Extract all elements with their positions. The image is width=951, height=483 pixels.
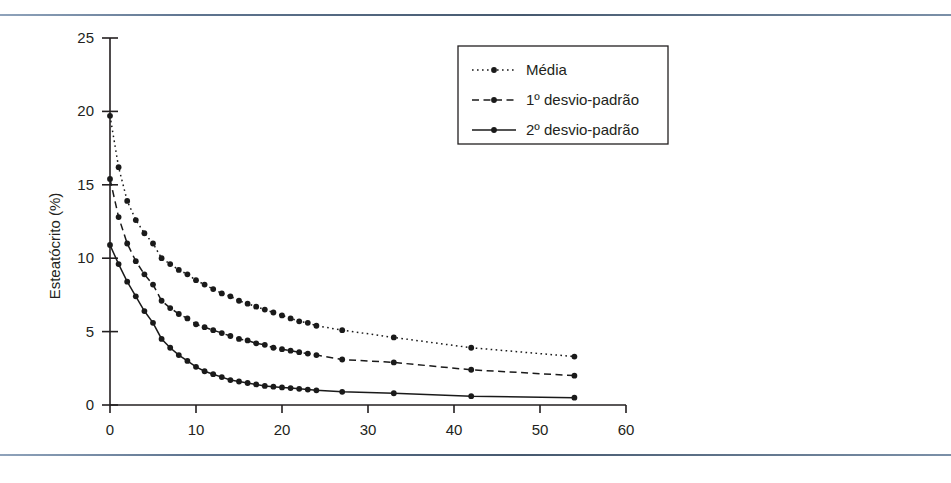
series-marker [176,311,182,317]
series-marker [288,348,294,354]
series-marker [236,379,242,385]
series-marker [202,282,208,288]
series-marker [124,198,130,204]
x-axis-tick-label: 10 [188,421,205,438]
series-marker [305,320,311,326]
chart-figure: 01020304050600510152025 Esteatócrito (%)… [0,16,951,454]
series-marker [271,384,277,390]
series-marker [305,387,311,393]
series-marker [210,371,216,377]
series-marker [210,327,216,333]
series-marker [167,261,173,267]
y-axis-title: Esteatócrito (%) [46,193,63,300]
series-marker [176,352,182,358]
legend-sample-marker [491,67,497,73]
series-marker [167,305,173,311]
legend-item-label: Média [526,61,568,78]
series-line [110,179,574,376]
series-marker [124,241,130,247]
y-axis-tick-label: 15 [77,176,94,193]
series-marker [339,357,345,363]
y-axis-tick-label: 0 [86,396,94,413]
series-marker [193,321,199,327]
series-marker [228,377,234,383]
series-marker [142,308,148,314]
series-marker [296,386,302,392]
series-marker [133,258,139,264]
series-marker [253,382,259,388]
series-marker [279,313,285,319]
series-marker [262,307,268,313]
series-marker [314,352,320,358]
series-marker [245,338,251,344]
series-marker [176,267,182,273]
series-marker [245,380,251,386]
series-marker [468,345,474,351]
series-marker [133,293,139,299]
series-marker [339,389,345,395]
series-marker [193,364,199,370]
series-marker [296,318,302,324]
x-axis-tick-label: 0 [106,421,114,438]
series-marker [185,358,191,364]
series-marker [305,351,311,357]
series-marker [219,374,225,380]
series-marker [116,261,122,267]
series-marker [391,335,397,341]
series-marker [391,360,397,366]
series-marker [116,214,122,220]
series-marker [133,217,139,223]
series-marker [339,327,345,333]
series-marker [116,164,122,170]
series-marker [314,323,320,329]
series-marker [468,367,474,373]
series-marker [142,230,148,236]
series-marker [150,241,156,247]
x-axis-tick-label: 30 [360,421,377,438]
series-marker [314,387,320,393]
legend-item-label: 2º desvio-padrão [526,121,639,138]
series-marker [228,333,234,339]
series-marker [391,390,397,396]
series-marker [572,373,578,379]
series-marker [159,336,165,342]
y-axis-title-text: Esteatócrito (%) [46,193,63,300]
series-marker [271,345,277,351]
figure-page: 01020304050600510152025 Esteatócrito (%)… [0,0,951,483]
series-marker [279,346,285,352]
series-marker [253,340,259,346]
series-marker [185,271,191,277]
series-marker [296,349,302,355]
series-marker [468,393,474,399]
x-axis-tick-label: 50 [532,421,549,438]
legend-sample-marker [491,97,497,103]
y-axis-tick-label: 10 [77,249,94,266]
series-marker [107,176,113,182]
series-marker [262,342,268,348]
series-marker [150,320,156,326]
x-axis-tick-label: 20 [274,421,291,438]
series-marker [288,385,294,391]
series-marker [572,395,578,401]
series-marker [236,336,242,342]
series-marker [159,255,165,261]
series-marker [271,310,277,316]
series-marker [107,113,113,119]
x-axis-tick-label: 60 [618,421,635,438]
series-marker [288,315,294,321]
series-marker [210,286,216,292]
x-axis-tick-label: 40 [446,421,463,438]
series-marker [262,383,268,389]
series-marker [124,279,130,285]
y-axis-tick-label: 20 [77,102,94,119]
series-marker [142,271,148,277]
series-marker [219,330,225,336]
series-marker [253,304,259,310]
series-marker [159,298,165,304]
esteatocrito-decay-chart: 01020304050600510152025 Esteatócrito (%)… [0,16,951,454]
chart-series [107,113,577,401]
chart-legend: Média1º desvio-padrão2º desvio-padrão [458,46,668,144]
series-marker [228,293,234,299]
series-marker [202,368,208,374]
series-marker [150,282,156,288]
